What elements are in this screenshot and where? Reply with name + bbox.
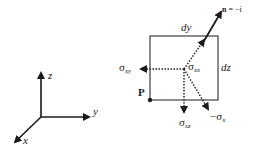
- neg-sigma-x-vector: [184, 69, 208, 109]
- sigma-xy-label: σxy: [119, 62, 131, 75]
- x-axis-label: x: [23, 135, 28, 146]
- y-axis-label: y: [93, 106, 98, 117]
- sigma-xx-label: σxx: [188, 61, 200, 74]
- point-p-dot: [148, 98, 152, 102]
- x-axis-arrow: [15, 117, 41, 142]
- z-axis-label: z: [48, 70, 52, 81]
- normal-equals: = −i: [226, 5, 241, 14]
- neg-sigma-x-label: −σx: [210, 111, 225, 124]
- dy-label: dy: [181, 22, 191, 33]
- stress-element-diagram: z y x dy dz P n = −i σxx σxy σxz −σx: [0, 0, 254, 147]
- point-p-label: P: [138, 87, 145, 98]
- normal-vector-label: n = −i: [222, 6, 242, 14]
- sigma-xx-subscript: xx: [194, 66, 200, 74]
- sigma-xy-subscript: xy: [125, 67, 131, 75]
- neg-sigma-x-symbol: −σ: [210, 110, 222, 122]
- coordinate-axes: [15, 73, 89, 142]
- sigma-xz-label: σxz: [179, 117, 191, 130]
- sigma-xz-subscript: xz: [185, 122, 191, 130]
- dz-label: dz: [221, 62, 231, 73]
- neg-sigma-x-subscript: x: [222, 116, 225, 124]
